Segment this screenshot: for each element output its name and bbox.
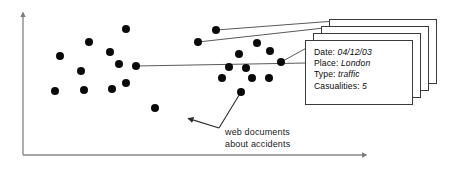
right-cluster-points <box>194 26 285 96</box>
data-point-7 <box>242 64 250 72</box>
data-point-3 <box>235 50 243 58</box>
data-point-8 <box>218 74 226 82</box>
data-point-3 <box>77 67 85 75</box>
data-point-7 <box>51 87 59 95</box>
data-point-11 <box>237 88 245 96</box>
data-point-1 <box>122 25 130 33</box>
pointer-segment-upper <box>219 92 241 128</box>
caption-line-1: web documents <box>225 127 290 139</box>
record-field-label-1: Place: <box>314 58 341 68</box>
data-point-11 <box>151 104 159 112</box>
record-field-label-3: Casualities: <box>314 81 362 91</box>
record-field-value-3: 5 <box>362 81 367 91</box>
record-field-value-0: 04/12/03 <box>338 47 372 57</box>
record-field-3: Casualities: 5 <box>314 81 404 92</box>
caption-web-documents: web documents about accidents <box>225 127 290 150</box>
record-field-value-1: London <box>341 58 370 68</box>
data-point-0 <box>85 38 93 46</box>
data-point-9 <box>108 85 116 93</box>
data-point-2 <box>253 39 261 47</box>
data-point-2 <box>56 52 64 60</box>
data-point-4 <box>225 63 233 71</box>
web-documents-pointer <box>188 92 241 128</box>
left-cluster-points <box>51 25 159 112</box>
record-field-value-2: traffic <box>338 69 360 79</box>
data-point-6 <box>115 60 123 68</box>
data-point-0 <box>212 26 220 34</box>
caption-line-2: about accidents <box>225 139 290 151</box>
data-point-10 <box>122 79 130 87</box>
data-point-6 <box>277 58 285 66</box>
record-field-0: Date: 04/12/03 <box>314 47 404 58</box>
record-field-2: Type: traffic <box>314 69 404 80</box>
record-field-1: Place: London <box>314 58 404 69</box>
data-point-8 <box>80 86 88 94</box>
data-point-10 <box>265 74 273 82</box>
data-point-9 <box>248 74 256 82</box>
document-card-front[interactable]: Date: 04/12/03Place: LondonType: traffic… <box>305 40 413 105</box>
data-point-5 <box>132 62 140 70</box>
diagram-canvas: Date: 04/12/03Place: LondonType: traffic… <box>0 0 461 172</box>
data-point-5 <box>266 47 274 55</box>
pointer-segment-lower <box>188 118 219 128</box>
data-point-4 <box>106 48 114 56</box>
data-point-1 <box>194 38 202 46</box>
record-field-label-2: Type: <box>314 69 338 79</box>
record-field-label-0: Date: <box>314 47 338 57</box>
